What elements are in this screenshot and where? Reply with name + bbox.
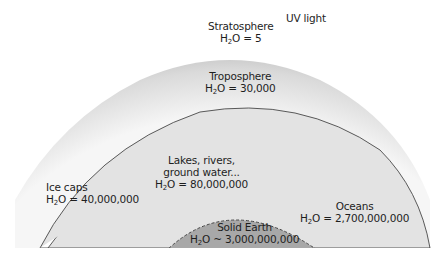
solid-earth-label: Solid Earth H2O ~ 3,000,000,000 (190, 221, 299, 245)
lakes-rivers-label: Lakes, rivers, ground water... H2O = 80,… (155, 154, 248, 190)
troposphere-label: Troposphere H2O = 30,000 (205, 70, 275, 94)
oceans-label: Oceans H2O = 2,700,000,000 (300, 200, 409, 224)
stratosphere-label: Stratosphere H2O = 5 (208, 20, 273, 44)
uv-light-label: UV light (286, 12, 326, 24)
ice-caps-label: Ice caps H2O = 40,000,000 (46, 181, 139, 205)
water-reservoirs-diagram: UV light Stratosphere H2O = 5 Tropospher… (0, 0, 441, 262)
